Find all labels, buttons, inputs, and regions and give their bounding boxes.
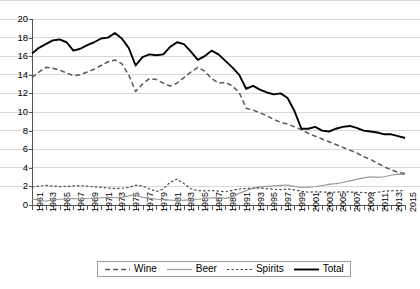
solid-bold-line-key [293, 265, 320, 274]
legend-item-beer[interactable]: Beer [166, 264, 217, 274]
dashed-line-key [104, 265, 131, 274]
line-chart: 02468101214161820 1961196319651967196919… [0, 0, 420, 289]
solid-light-line-key [166, 265, 193, 274]
series-line-total [32, 33, 405, 138]
legend-item-wine[interactable]: Wine [104, 264, 157, 274]
series-line-wine [32, 60, 405, 173]
legend-label: Total [323, 264, 344, 274]
legend-item-spirits[interactable]: Spirits [226, 264, 284, 274]
legend-label: Beer [196, 264, 217, 274]
chart-series-group [0, 0, 420, 289]
legend-item-total[interactable]: Total [293, 264, 344, 274]
legend-label: Spirits [256, 264, 284, 274]
dotted-line-key [226, 265, 253, 274]
chart-legend: WineBeerSpiritsTotal [97, 261, 351, 277]
legend-label: Wine [134, 264, 157, 274]
series-line-beer [32, 174, 405, 201]
